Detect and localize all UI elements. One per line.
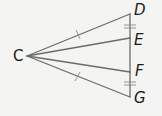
point-label-F: F (135, 64, 144, 79)
segment-CG (27, 56, 130, 97)
point-label-G: G (134, 91, 146, 106)
point-label-E: E (134, 33, 143, 48)
point-label-C: C (13, 49, 23, 64)
segment-CE (27, 38, 130, 56)
point-label-D: D (134, 3, 146, 18)
segment-CF (27, 56, 130, 72)
geometry-diagram: C D E F G (0, 0, 162, 116)
